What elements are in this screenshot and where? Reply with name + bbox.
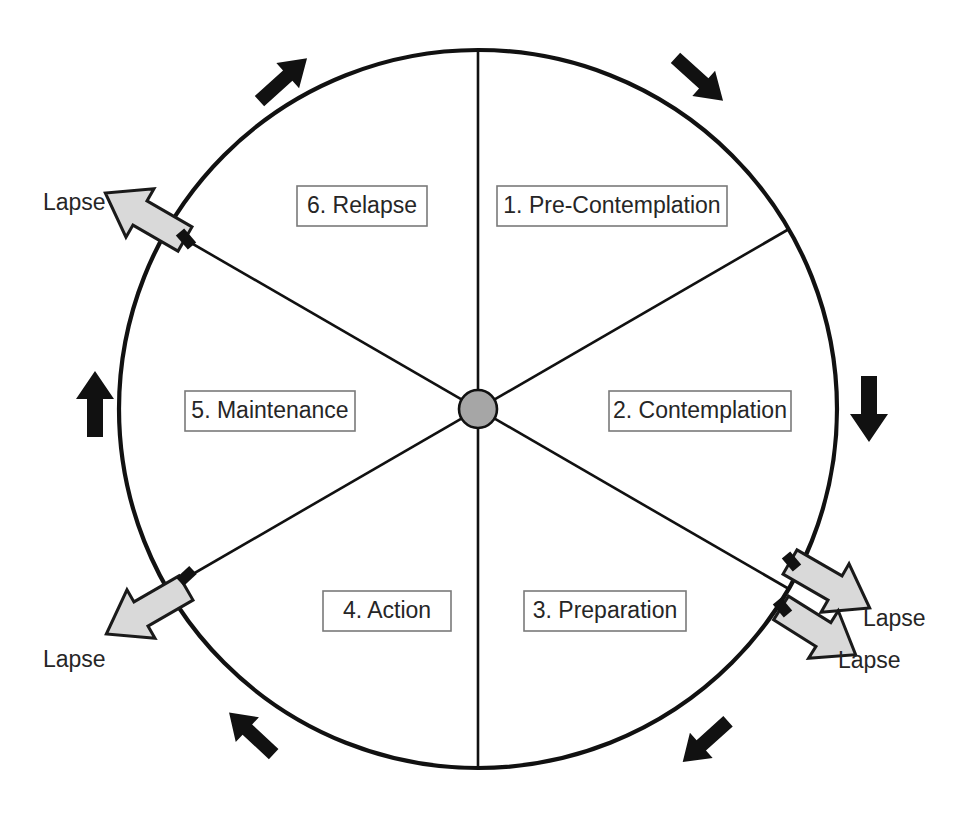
stage-text-maintenance: 5. Maintenance — [191, 397, 348, 423]
flow-arrow-left-icon — [76, 371, 114, 437]
lapse-label-right-lower: Lapse — [838, 647, 901, 673]
stage-label-relapse[interactable]: 6. Relapse — [297, 186, 427, 226]
stage-label-preparation[interactable]: 3. Preparation — [524, 591, 686, 631]
spoke-tick-lower-left — [180, 570, 193, 582]
flow-arrow-bottom-right-icon — [671, 709, 739, 775]
lapse-arrow-upper-left — [91, 169, 199, 263]
flow-arrow-top-left-icon — [248, 46, 318, 114]
flow-arrow-top-right-icon — [664, 45, 734, 113]
stage-text-preparation: 3. Preparation — [533, 597, 677, 623]
flow-arrow-bottom-left-icon — [217, 700, 285, 766]
stage-text-action: 4. Action — [343, 597, 431, 623]
lapse-label-lower-left: Lapse — [43, 646, 106, 672]
stage-text-contemplation: 2. Contemplation — [613, 397, 787, 423]
lapse-label-right-upper: Lapse — [863, 605, 926, 631]
stage-label-action[interactable]: 4. Action — [323, 591, 451, 631]
stage-label-maintenance[interactable]: 5. Maintenance — [185, 391, 355, 431]
stage-label-contemplation[interactable]: 2. Contemplation — [609, 391, 791, 431]
stage-text-pre-contemplation: 1. Pre-Contemplation — [503, 192, 720, 218]
stage-label-pre-contemplation[interactable]: 1. Pre-Contemplation — [497, 186, 727, 226]
flow-arrow-right-icon — [850, 376, 888, 442]
center-hub — [459, 390, 497, 428]
stages-of-change-diagram: 1. Pre-Contemplation 2. Contemplation 3.… — [0, 0, 974, 815]
stage-text-relapse: 6. Relapse — [307, 192, 417, 218]
cycle-wheel-canvas: 1. Pre-Contemplation 2. Contemplation 3.… — [0, 0, 974, 815]
lapse-label-upper-left: Lapse — [43, 189, 106, 215]
